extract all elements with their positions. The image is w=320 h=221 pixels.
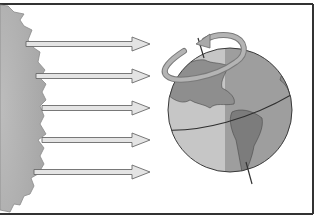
sun-earth-diagram bbox=[0, 0, 320, 221]
ray-arrow-icon bbox=[42, 133, 150, 147]
rotation-arrowhead bbox=[196, 34, 210, 48]
ray-arrow-icon bbox=[34, 165, 150, 179]
ray-arrow-icon bbox=[26, 37, 150, 51]
ray-arrow-icon bbox=[42, 101, 150, 115]
diagram-canvas bbox=[0, 0, 320, 221]
sun-rays bbox=[26, 37, 150, 179]
sun-icon bbox=[0, 5, 46, 212]
ray-arrow-icon bbox=[36, 69, 150, 83]
